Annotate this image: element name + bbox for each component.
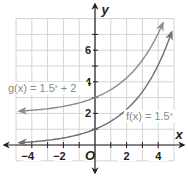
- x-tick-label: −2: [53, 150, 66, 162]
- origin-label: O: [85, 148, 95, 163]
- x-tick-label: −4: [22, 150, 35, 162]
- x-tick-label: 4: [155, 150, 162, 162]
- exponential-graph: −4−224246Oxyg(x) = 1.5x + 2f(x) = 1.5x: [0, 0, 188, 177]
- y-axis-label: y: [100, 2, 109, 17]
- f-function-label: f(x) = 1.5x: [126, 110, 173, 122]
- y-tick-label: 2: [85, 107, 91, 119]
- x-tick-label: 2: [124, 150, 130, 162]
- y-tick-label: 6: [85, 44, 91, 56]
- labels: −4−224246Oxyg(x) = 1.5x + 2f(x) = 1.5x: [4, 2, 183, 163]
- x-axis-label: x: [174, 127, 183, 142]
- g-function-label: g(x) = 1.5x + 2: [8, 82, 76, 94]
